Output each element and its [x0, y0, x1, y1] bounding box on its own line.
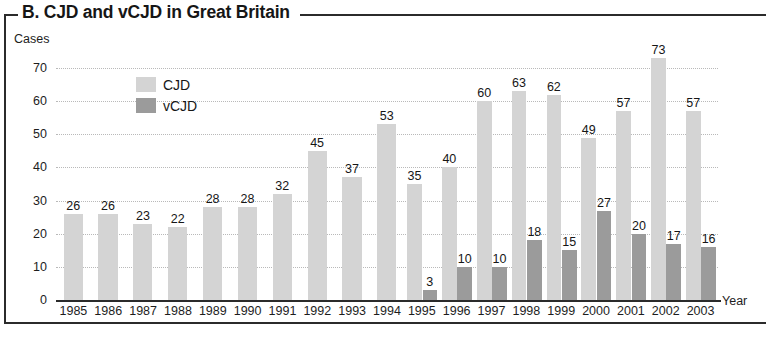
y-tick-label: 50 — [33, 127, 47, 141]
bar-group: 353 — [404, 60, 439, 300]
bar-value-label-vcjd: 15 — [562, 235, 576, 249]
bar-vcjd[interactable]: 10 — [457, 267, 472, 300]
y-tick-label: 40 — [33, 160, 47, 174]
x-tick-label: 2000 — [582, 304, 610, 318]
bar-cjd[interactable]: 26 — [64, 214, 83, 300]
bar-group: 6318 — [509, 60, 544, 300]
bar-value-label-vcjd: 27 — [597, 196, 611, 210]
bar-vcjd[interactable]: 18 — [527, 240, 542, 300]
legend-label: CJD — [163, 77, 190, 93]
bar-cjd[interactable]: 40 — [442, 167, 457, 300]
bar-group: 26 — [56, 60, 91, 300]
x-tick-label: 1988 — [164, 304, 192, 318]
legend-item: vCJD — [136, 95, 256, 116]
x-tick-label: 2003 — [687, 304, 715, 318]
bar-cjd[interactable]: 32 — [273, 194, 292, 300]
x-tick-label: 1999 — [547, 304, 575, 318]
bar-value-label-cjd: 60 — [477, 86, 491, 100]
bar-cjd[interactable]: 62 — [547, 95, 562, 300]
bar-vcjd[interactable]: 27 — [597, 211, 612, 300]
bar-group: 6215 — [544, 60, 579, 300]
bar-value-label-vcjd: 10 — [458, 252, 472, 266]
bar-value-label-vcjd: 20 — [632, 219, 646, 233]
frame-border-top-left — [4, 14, 18, 16]
x-tick-label: 1990 — [234, 304, 262, 318]
y-tick-label: 10 — [33, 260, 47, 274]
bar-group: 32 — [265, 60, 300, 300]
chart-legend: CJDvCJD — [136, 74, 256, 116]
y-tick-label: 60 — [33, 94, 47, 108]
x-tick-label: 2002 — [652, 304, 680, 318]
bar-cjd[interactable]: 53 — [377, 124, 396, 300]
bar-cjd[interactable]: 73 — [651, 58, 666, 300]
x-axis-title: Year — [722, 294, 747, 308]
bar-group: 45 — [300, 60, 335, 300]
y-tick-label: 20 — [33, 227, 47, 241]
bar-cjd[interactable]: 22 — [168, 227, 187, 300]
y-tick-label: 70 — [33, 61, 47, 75]
x-tick-label: 1993 — [338, 304, 366, 318]
bar-cjd[interactable]: 57 — [616, 111, 631, 300]
legend-label: vCJD — [163, 98, 197, 114]
bar-value-label-cjd: 28 — [206, 192, 220, 206]
bar-group: 26 — [91, 60, 126, 300]
bar-value-label-vcjd: 10 — [493, 252, 507, 266]
bar-cjd[interactable]: 49 — [581, 138, 596, 300]
bar-value-label-cjd: 40 — [442, 152, 456, 166]
x-tick-label: 2001 — [617, 304, 645, 318]
bar-value-label-cjd: 37 — [345, 162, 359, 176]
bar-cjd[interactable]: 35 — [407, 184, 422, 300]
bar-vcjd[interactable]: 16 — [701, 247, 716, 300]
bar-value-label-cjd: 63 — [512, 76, 526, 90]
bar-value-label-cjd: 32 — [275, 179, 289, 193]
bar-vcjd[interactable]: 20 — [632, 234, 647, 300]
y-axis-tick-labels: 010203040506070 — [0, 60, 56, 300]
y-axis-title: Cases — [14, 32, 49, 46]
x-tick-label: 1998 — [512, 304, 540, 318]
bar-value-label-vcjd: 17 — [667, 229, 681, 243]
x-tick-label: 1989 — [199, 304, 227, 318]
frame-border-top-right — [300, 14, 766, 16]
x-tick-label: 1997 — [478, 304, 506, 318]
bar-value-label-cjd: 73 — [651, 43, 665, 57]
bar-cjd[interactable]: 37 — [342, 177, 361, 300]
bar-value-label-cjd: 49 — [582, 123, 596, 137]
bar-value-label-vcjd: 16 — [702, 232, 716, 246]
bar-vcjd[interactable]: 3 — [423, 290, 438, 300]
x-tick-label: 1994 — [373, 304, 401, 318]
bar-cjd[interactable]: 45 — [308, 151, 327, 300]
bar-vcjd[interactable]: 15 — [562, 250, 577, 300]
bar-value-label-cjd: 45 — [310, 136, 324, 150]
x-axis-tick-labels: 1985198619871988198919901991199219931994… — [56, 304, 718, 324]
bar-cjd[interactable]: 28 — [203, 207, 222, 300]
bar-value-label-cjd: 23 — [136, 209, 150, 223]
bar-value-label-cjd: 57 — [686, 96, 700, 110]
bar-cjd[interactable]: 63 — [512, 91, 527, 300]
bar-cjd[interactable]: 57 — [686, 111, 701, 300]
x-tick-label: 1996 — [443, 304, 471, 318]
bar-cjd[interactable]: 28 — [238, 207, 257, 300]
y-tick-label: 30 — [33, 194, 47, 208]
bar-group: 4927 — [579, 60, 614, 300]
bar-vcjd[interactable]: 17 — [666, 244, 681, 300]
bar-vcjd[interactable]: 10 — [492, 267, 507, 300]
bar-value-label-cjd: 35 — [408, 169, 422, 183]
x-tick-label: 1992 — [303, 304, 331, 318]
bar-cjd[interactable]: 23 — [133, 224, 152, 300]
bar-group: 5716 — [683, 60, 718, 300]
bar-group: 5720 — [613, 60, 648, 300]
bar-value-label-vcjd: 18 — [527, 225, 541, 239]
bar-value-label-cjd: 22 — [171, 212, 185, 226]
bar-cjd[interactable]: 60 — [477, 101, 492, 300]
bar-value-label-vcjd: 3 — [426, 275, 433, 289]
bar-value-label-cjd: 28 — [240, 192, 254, 206]
bar-cjd[interactable]: 26 — [98, 214, 117, 300]
x-axis-line — [56, 300, 721, 302]
panel-title: B. CJD and vCJD in Great Britain — [22, 2, 296, 23]
x-tick-label: 1986 — [94, 304, 122, 318]
bar-group: 6010 — [474, 60, 509, 300]
bar-group: 4010 — [439, 60, 474, 300]
bar-value-label-cjd: 26 — [101, 199, 115, 213]
legend-swatch-icon — [136, 98, 156, 113]
legend-item: CJD — [136, 74, 256, 95]
